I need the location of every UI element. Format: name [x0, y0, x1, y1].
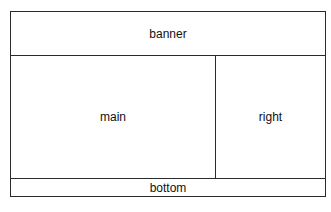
right-label: right — [259, 110, 282, 124]
banner-region: banner — [11, 12, 325, 56]
right-region: right — [216, 56, 325, 178]
main-region: main — [11, 56, 216, 178]
main-label: main — [100, 110, 126, 124]
banner-label: banner — [149, 27, 186, 41]
layout-frame: banner main right bottom — [10, 11, 326, 197]
bottom-label: bottom — [150, 181, 187, 195]
bottom-region: bottom — [11, 178, 325, 196]
